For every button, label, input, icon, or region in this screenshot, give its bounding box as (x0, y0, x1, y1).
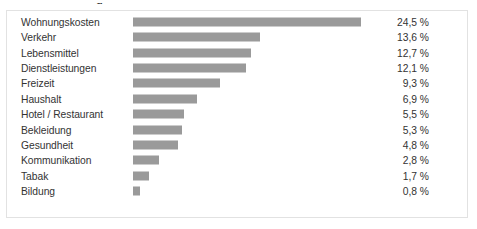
bar-track (133, 110, 361, 119)
bar-row: Gesundheit4,8 % (7, 137, 467, 152)
chart-frame: Wohnungskosten24,5 %Verkehr13,6 %Lebensm… (6, 10, 468, 218)
bar-category-label: Freizeit (21, 78, 127, 89)
bar-row: Kommunikation2,8 % (7, 153, 467, 168)
bar-track (133, 33, 361, 42)
bar-category-label: Kommunikation (21, 155, 127, 166)
bar-fill (133, 187, 140, 196)
bar-category-label: Wohnungskosten (21, 16, 127, 27)
bar-row: Freizeit9,3 % (7, 76, 467, 91)
bar-value-label: 12,1 % (373, 63, 429, 74)
bar-row: Bildung0,8 % (7, 184, 467, 199)
bar-fill (133, 33, 260, 42)
bar-value-label: 24,5 % (373, 16, 429, 27)
bar-category-label: Tabak (21, 170, 127, 181)
bar-row: Tabak1,7 % (7, 168, 467, 183)
bar-fill (133, 64, 246, 73)
bar-value-label: 5,3 % (373, 124, 429, 135)
bar-value-label: 13,6 % (373, 32, 429, 43)
bar-category-label: Dienstleistungen (21, 63, 127, 74)
bar-value-label: 0,8 % (373, 186, 429, 197)
bar-track (133, 79, 361, 88)
bar-track (133, 125, 361, 134)
bar-row: Verkehr13,6 % (7, 30, 467, 45)
bar-row: Haushalt6,9 % (7, 91, 467, 106)
bar-value-label: 12,7 % (373, 47, 429, 58)
bar-track (133, 171, 361, 180)
bar-fill (133, 171, 149, 180)
bar-value-label: 2,8 % (373, 155, 429, 166)
bar-row: Wohnungskosten24,5 % (7, 14, 467, 29)
bar-chart-rows: Wohnungskosten24,5 %Verkehr13,6 %Lebensm… (7, 11, 467, 217)
bar-fill (133, 48, 251, 57)
bar-fill (133, 17, 361, 26)
bar-row: Hotel / Restaurant5,5 % (7, 107, 467, 122)
bar-track (133, 48, 361, 57)
bar-fill (133, 110, 184, 119)
bar-category-label: Bekleidung (21, 124, 127, 135)
bar-row: Lebensmittel12,7 % (7, 45, 467, 60)
bar-category-label: Bildung (21, 186, 127, 197)
bar-track (133, 17, 361, 26)
bar-track (133, 64, 361, 73)
bar-track (133, 187, 361, 196)
bar-value-label: 6,9 % (373, 93, 429, 104)
bar-category-label: Haushalt (21, 93, 127, 104)
bar-value-label: 9,3 % (373, 78, 429, 89)
bar-category-label: Verkehr (21, 32, 127, 43)
bar-fill (133, 79, 220, 88)
bar-fill (133, 141, 178, 150)
bar-track (133, 141, 361, 150)
bar-value-label: 1,7 % (373, 170, 429, 181)
cropped-title-remnant: g (96, 0, 122, 4)
bar-track (133, 156, 361, 165)
bar-category-label: Gesundheit (21, 140, 127, 151)
bar-value-label: 5,5 % (373, 109, 429, 120)
bar-category-label: Hotel / Restaurant (21, 109, 127, 120)
bar-value-label: 4,8 % (373, 140, 429, 151)
bar-fill (133, 156, 159, 165)
bar-category-label: Lebensmittel (21, 47, 127, 58)
bar-row: Dienstleistungen12,1 % (7, 60, 467, 75)
bar-row: Bekleidung5,3 % (7, 122, 467, 137)
bar-fill (133, 94, 197, 103)
bar-track (133, 94, 361, 103)
bar-fill (133, 125, 182, 134)
